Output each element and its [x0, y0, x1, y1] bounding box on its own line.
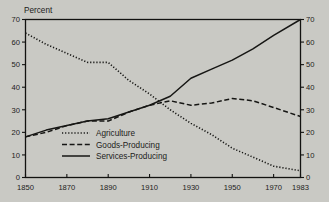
x-tick-label: 1983 — [292, 183, 309, 192]
x-tick-label: 1910 — [141, 183, 158, 192]
y-tick-label-right: 10 — [306, 151, 314, 160]
y-tick-label-right: 0 — [306, 173, 310, 182]
y-tick-label-right: 20 — [306, 128, 314, 137]
y-axis-title: Percent — [24, 6, 53, 15]
y-tick-label: 10 — [12, 151, 20, 160]
y-tick-label-right: 40 — [306, 83, 314, 92]
y-tick-label-right: 70 — [306, 15, 314, 24]
y-tick-label: 30 — [12, 106, 20, 115]
x-tick-label: 1890 — [100, 183, 117, 192]
y-tick-label: 60 — [12, 38, 20, 47]
y-tick-label: 20 — [12, 128, 20, 137]
y-tick-label: 40 — [12, 83, 20, 92]
y-tick-label-right: 50 — [306, 60, 314, 69]
line-chart: Percent 010203040506070 010203040506070 … — [0, 0, 329, 202]
y-tick-label-right: 30 — [306, 106, 314, 115]
x-tick-label: 1870 — [58, 183, 75, 192]
y-tick-label: 0 — [16, 173, 20, 182]
x-tick-label: 1970 — [265, 183, 282, 192]
figure-background — [0, 0, 329, 202]
x-tick-label: 1950 — [224, 183, 241, 192]
x-tick-label: 1930 — [182, 183, 199, 192]
y-tick-label-right: 60 — [306, 38, 314, 47]
x-tick-label: 1850 — [17, 183, 34, 192]
chart-figure: Percent 010203040506070 010203040506070 … — [0, 0, 329, 202]
legend-label-goods-producing: Goods-Producing — [96, 141, 160, 150]
legend-label-agriculture: Agriculture — [96, 129, 136, 138]
y-tick-label: 70 — [12, 15, 20, 24]
y-tick-label: 50 — [12, 60, 20, 69]
legend-label-services-producing: Services-Producing — [96, 152, 167, 161]
